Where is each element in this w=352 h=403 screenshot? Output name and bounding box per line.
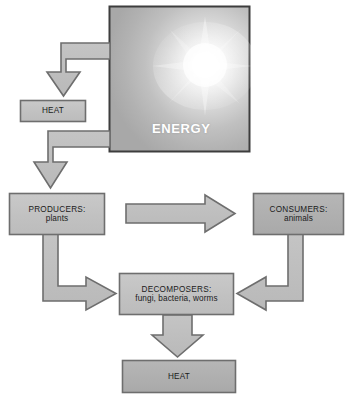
energy-flow-diagram [0,0,352,403]
arrow-producers-to-consumers [126,195,235,232]
arrow-producers-to-decomposers [43,234,116,310]
sun-core-bright [192,52,218,78]
arrow-energy-to-producers [34,131,110,188]
decomposers-box [120,274,234,315]
heat-bottom-box [123,361,236,393]
arrow-decomposers-to-heat [152,315,203,357]
arrow-energy-to-heat-top [47,43,110,96]
consumers-box [254,194,344,235]
energy-node [110,7,258,152]
heat-top-box [21,101,86,122]
diagram-canvas: ENERGY HEAT PRODUCERS: plants CONSUMERS:… [0,0,352,403]
producers-box [10,194,105,235]
arrow-consumers-to-decomposers [237,234,303,310]
